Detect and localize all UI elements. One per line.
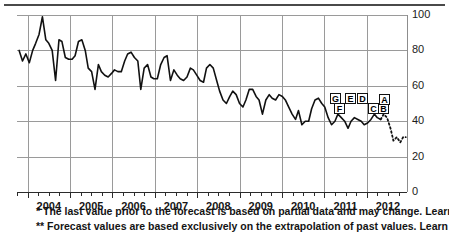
- x-tick: [367, 192, 368, 198]
- x-tick: [250, 192, 251, 196]
- x-tick: [49, 192, 50, 196]
- x-tick: [303, 192, 304, 196]
- x-axis-line: [17, 192, 407, 193]
- x-tick: [123, 192, 124, 196]
- footnote-forecast-basis[interactable]: ** Forecast values are based exclusively…: [36, 219, 449, 234]
- x-tick: [187, 192, 188, 196]
- x-tick: [388, 192, 389, 196]
- x-tick: [346, 192, 347, 196]
- x-tick: [335, 192, 336, 196]
- x-tick: [218, 192, 219, 196]
- x-tick: [155, 192, 156, 198]
- x-tick: [208, 192, 209, 196]
- x-tick: [324, 192, 325, 198]
- x-tick: [38, 192, 39, 196]
- x-tick: [17, 192, 18, 196]
- annotation-marker-d[interactable]: D: [357, 93, 368, 104]
- x-axis: [0, 192, 449, 200]
- x-tick: [271, 192, 272, 196]
- x-tick: [293, 192, 294, 196]
- x-tick: [399, 192, 400, 196]
- x-tick: [112, 192, 113, 198]
- x-tick: [240, 192, 241, 198]
- x-tick: [70, 192, 71, 198]
- x-tick: [176, 192, 177, 196]
- x-tick: [91, 192, 92, 196]
- top-divider: [4, 4, 445, 6]
- x-tick: [261, 192, 262, 196]
- footnote-partial-data[interactable]: * The last value prior to the forecast i…: [36, 204, 449, 219]
- x-tick: [28, 192, 29, 198]
- x-tick: [356, 192, 357, 196]
- x-tick: [314, 192, 315, 196]
- x-tick: [134, 192, 135, 196]
- x-tick: [102, 192, 103, 196]
- x-tick: [197, 192, 198, 198]
- x-tick: [282, 192, 283, 198]
- x-tick: [144, 192, 145, 196]
- footnotes: * The last value prior to the forecast i…: [0, 204, 449, 234]
- annotation-markers: GFEDCBA: [0, 10, 449, 192]
- annotation-marker-a[interactable]: A: [379, 94, 390, 105]
- x-tick: [59, 192, 60, 196]
- x-tick: [165, 192, 166, 196]
- x-tick: [229, 192, 230, 196]
- annotation-marker-f[interactable]: F: [334, 103, 345, 114]
- chart-screenshot: 020406080100 200420052006200720082009201…: [0, 0, 449, 239]
- x-tick: [81, 192, 82, 196]
- annotation-marker-e[interactable]: E: [345, 93, 356, 104]
- x-tick: [377, 192, 378, 196]
